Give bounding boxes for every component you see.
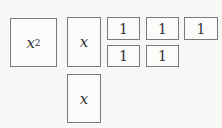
x-squared-exponent: 2: [35, 38, 41, 48]
unit-tile: 1: [107, 45, 140, 67]
x-tile-label: x: [80, 33, 88, 51]
unit-tile-label: 1: [119, 48, 128, 64]
x-tile: x: [67, 17, 101, 67]
x-tile-label: x: [80, 90, 88, 108]
x-tile: x: [67, 74, 101, 123]
unit-tile-label: 1: [158, 48, 167, 64]
unit-tile: 1: [146, 17, 179, 40]
x-squared-tile: x2: [10, 18, 57, 67]
x-squared-var: x: [26, 34, 34, 52]
unit-tile-label: 1: [197, 21, 206, 37]
unit-tile-label: 1: [119, 21, 128, 37]
unit-tile-label: 1: [158, 21, 167, 37]
unit-tile: 1: [107, 17, 140, 40]
unit-tile: 1: [146, 45, 179, 67]
unit-tile: 1: [184, 17, 218, 40]
